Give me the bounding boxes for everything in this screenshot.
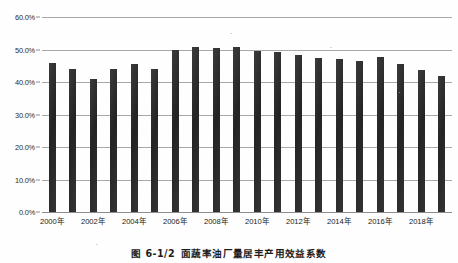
y-tick-label: 40.0% — [15, 78, 35, 87]
bar — [110, 69, 117, 212]
bar — [295, 55, 302, 212]
y-tick-label: 50.0% — [15, 45, 35, 54]
y-tick-mark — [36, 114, 40, 115]
y-tick-label: 10.0% — [15, 175, 35, 184]
y-tick-mark — [36, 49, 40, 50]
bar — [172, 50, 179, 212]
bar — [213, 48, 220, 212]
bar — [254, 51, 261, 212]
bar — [90, 79, 97, 212]
x-tick-label: 2006年 — [163, 215, 187, 226]
y-axis: 0.0%10.0%20.0%30.0%40.0%50.0%60.0% — [0, 17, 40, 212]
plot-area — [42, 17, 452, 212]
bar — [151, 69, 158, 212]
bar — [397, 64, 404, 212]
bar — [336, 59, 343, 212]
bar — [131, 64, 138, 212]
y-tick-label: 30.0% — [15, 110, 35, 119]
x-tick-label: 2004年 — [122, 215, 146, 226]
bar — [438, 76, 445, 212]
x-tick-label: 2012年 — [286, 215, 310, 226]
scan-artifact — [96, 244, 98, 245]
caption-number: 图 6-1/2 — [131, 248, 175, 259]
x-axis: 2000年2002年2004年2006年2008年2010年2012年2014年… — [42, 212, 452, 234]
bar-series — [42, 17, 452, 212]
bar — [356, 61, 363, 212]
x-tick-label: 2008年 — [204, 215, 228, 226]
x-tick-label: 2014年 — [327, 215, 351, 226]
y-tick-mark — [36, 179, 40, 180]
bar — [69, 69, 76, 212]
x-tick-label: 2002年 — [81, 215, 105, 226]
y-tick-mark — [36, 82, 40, 83]
y-tick-label: 60.0% — [15, 13, 35, 22]
figure-caption: 图 6-1/2面蔬率油厂量居丰产用效益系数 — [0, 246, 458, 260]
bar — [274, 52, 281, 212]
y-tick-mark — [36, 147, 40, 148]
bar — [377, 57, 384, 212]
figure-container: 0.0%10.0%20.0%30.0%40.0%50.0%60.0% 2000年… — [0, 0, 458, 263]
x-tick-label: 2016年 — [368, 215, 392, 226]
y-tick-label: 20.0% — [15, 143, 35, 152]
x-tick-label: 2000年 — [40, 215, 64, 226]
bar — [315, 58, 322, 212]
bar — [49, 63, 56, 213]
x-tick-label: 2018年 — [409, 215, 433, 226]
bar — [418, 70, 425, 212]
y-tick-mark — [36, 212, 40, 213]
bar — [233, 47, 240, 212]
y-tick-label: 0.0% — [19, 208, 35, 217]
x-tick-label: 2010年 — [245, 215, 269, 226]
caption-text: 面蔬率油厂量居丰产用效益系数 — [181, 248, 327, 259]
bar — [192, 47, 199, 212]
y-tick-mark — [36, 17, 40, 18]
